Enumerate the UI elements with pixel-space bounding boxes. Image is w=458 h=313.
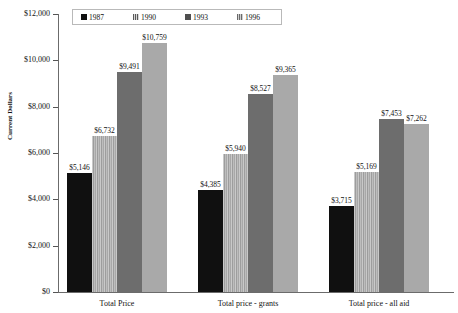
- bar-1993-1[interactable]: $9,491: [117, 72, 142, 292]
- y-tick-label: $2,000: [0, 241, 50, 250]
- y-tick-label: $8,000: [0, 102, 50, 111]
- bar-rect: [273, 75, 298, 292]
- bar-value-label: $7,453: [381, 109, 402, 118]
- category-label: Total price - grants: [178, 299, 318, 308]
- bar-value-label: $3,715: [331, 196, 352, 205]
- bar-group: $4,385$5,940$8,527$9,365: [198, 14, 298, 292]
- bar-rect: [404, 124, 429, 292]
- plot-area: $5,146$6,732$9,491$10,759$4,385$5,940$8,…: [58, 14, 454, 292]
- bar-value-label: $6,732: [94, 126, 115, 135]
- bar-rect: [223, 154, 248, 292]
- bar-rect: [198, 190, 223, 292]
- bar-1987-3[interactable]: $3,715: [329, 206, 354, 292]
- y-tick-label: $6,000: [0, 148, 50, 157]
- bar-1996-1[interactable]: $10,759: [142, 43, 167, 292]
- bar-1987-1[interactable]: $5,146: [67, 173, 92, 292]
- bar-1993-3[interactable]: $7,453: [379, 119, 404, 292]
- category-label: Total Price: [47, 299, 187, 308]
- bar-1993-2[interactable]: $8,527: [248, 94, 273, 292]
- bar-1996-3[interactable]: $7,262: [404, 124, 429, 292]
- bar-value-label: $5,940: [225, 144, 246, 153]
- bar-group: $5,146$6,732$9,491$10,759: [67, 14, 167, 292]
- bar-value-label: $7,262: [406, 114, 427, 123]
- y-tick-label: $12,000: [0, 9, 50, 18]
- bar-value-label: $8,527: [250, 84, 271, 93]
- bar-value-label: $4,385: [200, 180, 221, 189]
- bar-rect: [142, 43, 167, 292]
- bar-rect: [92, 136, 117, 292]
- bar-rect: [354, 172, 379, 292]
- bar-value-label: $5,146: [69, 163, 90, 172]
- bar-1990-1[interactable]: $6,732: [92, 136, 117, 292]
- x-axis-line: [58, 292, 454, 293]
- category-label: Total price - all aid: [309, 299, 449, 308]
- bar-1990-3[interactable]: $5,169: [354, 172, 379, 292]
- bar-group: $3,715$5,169$7,453$7,262: [329, 14, 429, 292]
- bar-value-label: $10,759: [142, 33, 166, 42]
- bar-value-label: $5,169: [356, 162, 377, 171]
- bar-chart: Current Dollars $12,000$10,000$8,000$6,0…: [0, 0, 458, 313]
- bar-1987-2[interactable]: $4,385: [198, 190, 223, 292]
- bar-rect: [379, 119, 404, 292]
- bar-1996-2[interactable]: $9,365: [273, 75, 298, 292]
- bar-value-label: $9,365: [275, 65, 296, 74]
- y-tick-label: $10,000: [0, 55, 50, 64]
- y-tick-label: $4,000: [0, 194, 50, 203]
- bar-rect: [67, 173, 92, 292]
- bar-rect: [117, 72, 142, 292]
- y-tick-label: $0: [0, 287, 50, 296]
- bar-value-label: $9,491: [119, 62, 140, 71]
- bar-rect: [329, 206, 354, 292]
- bar-1990-2[interactable]: $5,940: [223, 154, 248, 292]
- bar-rect: [248, 94, 273, 292]
